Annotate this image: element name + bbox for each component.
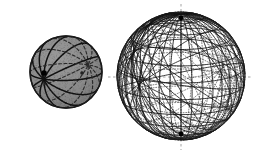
pole-node-north-pole (179, 16, 184, 21)
pole-node-south-pole (179, 132, 184, 137)
pole-node-front-pole (41, 70, 47, 76)
sphere-figures-canvas (0, 0, 259, 152)
pole-node-back-pole (80, 71, 84, 75)
figure-panel (0, 0, 259, 152)
